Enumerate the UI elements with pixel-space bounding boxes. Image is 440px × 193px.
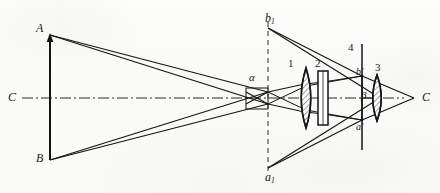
beam-top-to-focus	[362, 76, 414, 98]
object-arrow-head	[47, 33, 54, 42]
label-element-4: 4	[348, 42, 354, 53]
object-arrow-AB	[47, 33, 54, 160]
label-a1-subscript: 1	[271, 176, 275, 185]
ray-B-upper	[50, 92, 268, 160]
optical-diagram-figure: A B C C b1 a1 α β b′ a′ 1 2 3 4	[0, 0, 440, 193]
label-b1-subscript: 1	[271, 17, 275, 26]
label-image-bottom-a-prime: a′	[356, 121, 363, 132]
ray-A-lower	[50, 35, 268, 104]
label-axis-right-C: C	[422, 91, 430, 103]
label-angle-beta: β	[361, 90, 366, 101]
label-element-1: 1	[288, 58, 294, 69]
ray-bundle-from-A	[50, 35, 268, 104]
label-element-2: 2	[315, 58, 321, 69]
label-object-bottom-B: B	[36, 152, 43, 164]
beam-bottom-to-focus	[362, 98, 414, 120]
label-axis-left-C: C	[8, 91, 16, 103]
label-object-top-A: A	[36, 22, 43, 34]
ray-B-lower	[50, 104, 268, 160]
ray-bundle-from-B	[50, 92, 268, 160]
label-b-prime-mark: ′	[361, 65, 363, 77]
ray-diagram-canvas	[0, 0, 440, 193]
label-a-prime-mark: ′	[361, 120, 363, 132]
label-intermediate-bottom-a1: a1	[265, 171, 275, 183]
label-intermediate-top-b1: b1	[265, 12, 275, 24]
label-image-top-b-prime: b′	[356, 66, 363, 77]
label-element-3: 3	[375, 62, 381, 73]
ray-A-upper	[50, 35, 268, 92]
element-2-plate	[318, 71, 328, 125]
label-angle-alpha: α	[249, 72, 255, 83]
ray-a1-to-image-bottom	[268, 120, 362, 168]
